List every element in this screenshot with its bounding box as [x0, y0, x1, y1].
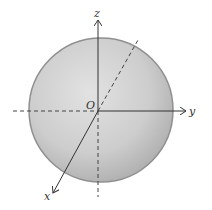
- diagram-canvas: z y x O: [0, 0, 212, 210]
- sphere: [29, 38, 173, 182]
- y-axis-label: y: [188, 105, 196, 118]
- x-axis-label: x: [44, 190, 51, 203]
- z-axis-label: z: [93, 7, 100, 20]
- origin-label: O: [86, 99, 95, 112]
- sphere-axes-diagram: z y x O: [0, 0, 212, 210]
